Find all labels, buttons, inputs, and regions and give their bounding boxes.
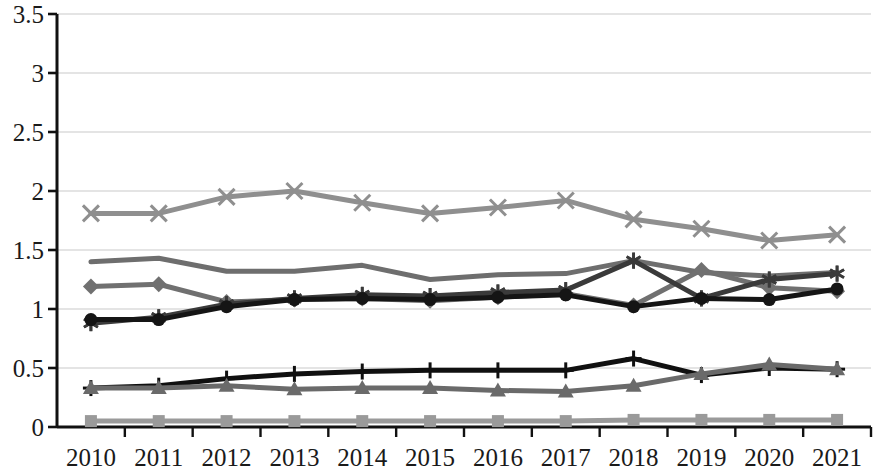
data-point-marker-circle [84,313,97,326]
data-point-marker-circle [220,300,233,313]
y-axis-tick-label: 0 [32,414,45,441]
data-point-marker-circle [356,292,369,305]
data-point-marker-square [492,415,504,427]
data-point-marker-circle [288,293,301,306]
y-axis-tick-label: 0.5 [13,355,44,382]
data-point-marker-square [153,415,165,427]
y-axis-tick-label: 3 [32,60,45,87]
data-point-marker-square [628,414,640,426]
x-axis-tick-label: 2017 [541,444,591,471]
x-axis-tick-label: 2012 [202,444,252,471]
data-point-marker-circle [152,313,165,326]
data-point-marker-square [85,415,97,427]
x-axis-tick-label: 2018 [609,444,659,471]
chart-canvas: 00.511.522.533.5 20102011201220132014201… [0,0,875,475]
x-axis-tick-label: 2016 [473,444,523,471]
data-point-marker-square [288,415,300,427]
data-point-marker-circle [831,282,844,295]
x-axis-tick-label: 2010 [66,444,116,471]
data-point-marker-circle [559,288,572,301]
data-point-marker-square [695,414,707,426]
x-axis-tick-label: 2014 [337,444,388,471]
data-point-marker-circle [627,300,640,313]
data-point-marker-circle [763,293,776,306]
y-axis-tick-label: 2.5 [13,119,44,146]
x-axis-tick-label: 2011 [134,444,183,471]
data-point-marker-square [831,414,843,426]
data-point-marker-square [356,415,368,427]
y-axis-tick-label: 2 [32,178,45,205]
line-chart: 00.511.522.533.5 20102011201220132014201… [0,0,875,475]
y-axis-tick-label: 3.5 [13,1,44,28]
data-point-marker-square [560,415,572,427]
data-point-marker-square [424,415,436,427]
data-point-marker-square [221,415,233,427]
data-point-marker-circle [695,292,708,305]
y-axis-tick-label: 1 [32,296,45,323]
x-axis-tick-label: 2021 [812,444,862,471]
data-point-marker-square [763,414,775,426]
x-axis-tick-label: 2015 [405,444,455,471]
x-axis-tick-label: 2020 [744,444,794,471]
data-point-marker-circle [491,291,504,304]
x-axis-tick-label: 2013 [269,444,319,471]
data-point-marker-circle [424,293,437,306]
series-line [91,420,837,421]
x-axis-tick-label: 2019 [676,444,726,471]
y-axis-tick-label: 1.5 [13,237,44,264]
